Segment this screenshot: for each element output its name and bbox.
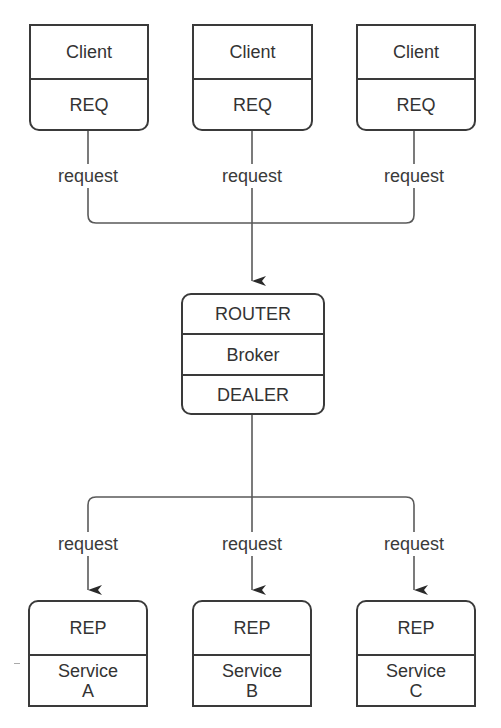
broker-backend-dealer: DEALER bbox=[183, 374, 323, 413]
broker-box: ROUTER Broker DEALER bbox=[181, 293, 325, 415]
service-socket-rep: REP bbox=[358, 602, 474, 654]
service-name-line1: Service bbox=[58, 661, 118, 681]
service-name-line2: B bbox=[246, 681, 258, 701]
service-name-line2: A bbox=[82, 681, 94, 701]
service-name: Service C bbox=[358, 654, 474, 705]
request-reply-broker-diagram: Client REQ Client REQ Client REQ request… bbox=[0, 0, 501, 728]
client-socket-req: REQ bbox=[31, 78, 147, 129]
client-socket-req: REQ bbox=[194, 78, 311, 129]
edge-label-request: request bbox=[384, 164, 444, 188]
edge-label-request: request bbox=[222, 164, 282, 188]
service-socket-rep: REP bbox=[194, 602, 310, 654]
client-socket-req: REQ bbox=[358, 78, 474, 129]
service-socket-rep: REP bbox=[30, 602, 146, 654]
edge-label-request: request bbox=[58, 532, 118, 556]
edge-label-request: request bbox=[58, 164, 118, 188]
service-name-line1: Service bbox=[222, 661, 282, 681]
service-box-a: REP Service A bbox=[28, 600, 148, 707]
edge-label-request: request bbox=[384, 532, 444, 556]
service-name-line1: Service bbox=[386, 661, 446, 681]
scan-artifact-dash bbox=[14, 663, 20, 664]
client-box-2: Client REQ bbox=[192, 24, 313, 131]
broker-frontend-router: ROUTER bbox=[183, 295, 323, 333]
client-title: Client bbox=[194, 26, 311, 78]
service-name-line2: C bbox=[410, 681, 423, 701]
client-box-1: Client REQ bbox=[29, 24, 149, 131]
broker-title: Broker bbox=[183, 333, 323, 374]
service-name: Service A bbox=[30, 654, 146, 705]
client-box-3: Client REQ bbox=[356, 24, 476, 131]
service-box-c: REP Service C bbox=[356, 600, 476, 707]
client-title: Client bbox=[31, 26, 147, 78]
service-name: Service B bbox=[194, 654, 310, 705]
edge-label-request: request bbox=[222, 532, 282, 556]
service-box-b: REP Service B bbox=[192, 600, 312, 707]
client-title: Client bbox=[358, 26, 474, 78]
